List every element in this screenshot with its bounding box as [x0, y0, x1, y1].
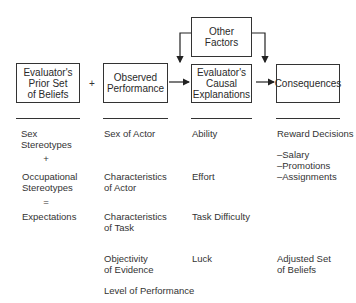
item-characteristics-of-task: Characteristics of Task — [104, 211, 167, 233]
consequences-box: Consequences — [276, 64, 340, 103]
plus-symbol: + — [89, 78, 95, 89]
consequences-label: Consequences — [275, 78, 342, 89]
prior-beliefs-label: Evaluator's Prior Set of Beliefs — [23, 67, 72, 100]
item-luck: Luck — [192, 253, 212, 264]
item-occupational-stereotypes: Occupational Stereotypes — [22, 171, 77, 193]
other-factors-label: Other Factors — [205, 26, 238, 48]
item-characteristics-of-actor: Characteristics of Actor — [104, 171, 167, 193]
divider-observed-performance — [103, 118, 168, 119]
item-task-difficulty: Task Difficulty — [192, 211, 250, 222]
divider-consequences — [276, 118, 340, 119]
causal-explanations-box: Evaluator's Causal Explanations — [191, 64, 252, 103]
item-effort: Effort — [192, 171, 215, 182]
divider-prior-beliefs — [16, 118, 80, 119]
observed-performance-box: Observed Performance — [103, 63, 168, 103]
item-ability: Ability — [192, 128, 217, 139]
item-adjusted-set-of-beliefs: Adjusted Set of Beliefs — [277, 253, 331, 275]
item-reward-decisions: Reward Decisions — [277, 128, 354, 139]
item-reward-list: –Salary –Promotions –Assignments — [277, 149, 337, 182]
item-sex-stereotypes: Sex Stereotypes — [21, 128, 72, 150]
causal-explanations-label: Evaluator's Causal Explanations — [193, 67, 250, 100]
observed-performance-label: Observed Performance — [107, 72, 164, 94]
prior-beliefs-box: Evaluator's Prior Set of Beliefs — [16, 63, 80, 103]
divider-causal-explanations — [191, 118, 252, 119]
item-plus: + — [41, 153, 51, 164]
item-expectations: Expectations — [22, 211, 76, 222]
item-sex-of-actor: Sex of Actor — [104, 128, 155, 139]
arrow-other-factors-left — [180, 33, 191, 62]
other-factors-box: Other Factors — [191, 17, 252, 57]
arrow-other-factors-right — [252, 33, 265, 62]
item-equals: = — [41, 196, 51, 207]
item-objectivity-of-evidence: Objectivity of Evidence — [104, 253, 154, 275]
item-level-of-performance: Level of Performance — [104, 285, 194, 296]
